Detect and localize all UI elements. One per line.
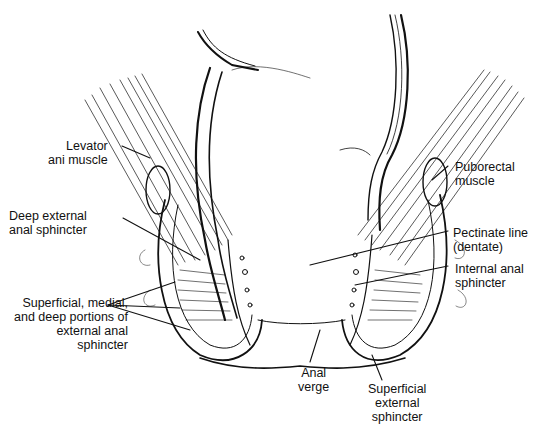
label-superficial-external-sphincter: Superficial external sphincter xyxy=(368,382,426,424)
anatomy-figure: Levator ani muscle Deep external anal sp… xyxy=(0,0,535,429)
label-anal-verge: Anal verge xyxy=(298,366,329,394)
label-deep-external-anal-sphincter: Deep external anal sphincter xyxy=(9,209,87,237)
label-internal-anal-sphincter: Internal anal sphincter xyxy=(455,262,524,290)
label-portions-external-anal-sphincter: Superficial, medial, and deep portions o… xyxy=(14,296,128,352)
label-pectinate-line: Pectinate line (dentate) xyxy=(453,226,528,254)
label-puborectal-muscle: Puborectal muscle xyxy=(455,160,515,188)
label-levator-ani: Levator ani muscle xyxy=(48,139,108,167)
